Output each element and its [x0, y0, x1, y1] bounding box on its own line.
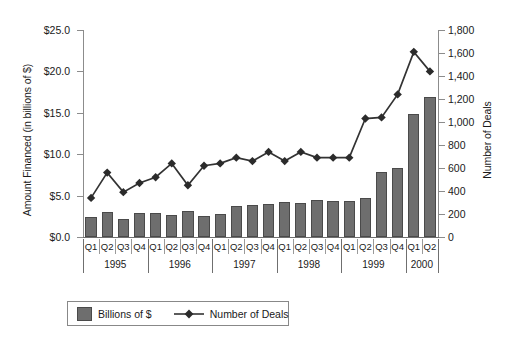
- right-tick-label: 800: [448, 140, 466, 150]
- x-tick-label: Q4: [131, 241, 147, 253]
- legend-item-bars: Billions of $: [77, 307, 152, 321]
- x-tick-label: Q3: [309, 241, 325, 253]
- x-tick-label: Q2: [164, 241, 180, 253]
- x-quarter-separator: [244, 239, 245, 254]
- x-tick-label: Q1: [83, 241, 99, 253]
- x-year-label: 1998: [277, 259, 342, 271]
- x-tick-label: Q1: [148, 241, 164, 253]
- x-year-label: 1996: [148, 259, 213, 271]
- x-quarter-separator: [115, 239, 116, 254]
- line-marker-diamond: [313, 153, 321, 161]
- right-tick: [439, 53, 445, 54]
- line-marker-diamond: [297, 148, 305, 156]
- right-tick-label: 200: [448, 209, 466, 219]
- x-tick-label: Q3: [244, 241, 260, 253]
- x-year-separator: [212, 239, 213, 273]
- chart-legend: Billions of $ Number of Deals: [67, 301, 289, 326]
- x-year-label: 2000: [406, 259, 438, 271]
- left-tick-label: $10.0: [44, 149, 70, 159]
- right-tick: [439, 168, 445, 169]
- x-tick-label: Q1: [277, 241, 293, 253]
- line-marker-diamond: [345, 153, 353, 161]
- line-marker-diamond: [87, 194, 95, 202]
- x-tick-label: Q2: [422, 241, 438, 253]
- x-quarter-separator: [228, 239, 229, 254]
- left-tick-label: $20.0: [44, 66, 70, 76]
- right-tick-label: 1,800: [448, 25, 474, 35]
- x-tick-label: Q1: [406, 241, 422, 253]
- right-tick: [439, 99, 445, 100]
- line-marker-diamond: [329, 153, 337, 161]
- legend-label-line: Number of Deals: [210, 308, 289, 320]
- x-tick-label: Q2: [293, 241, 309, 253]
- x-quarter-separator: [196, 239, 197, 254]
- right-tick: [439, 145, 445, 146]
- x-year-separator: [83, 239, 84, 273]
- line-marker-diamond: [135, 179, 143, 187]
- line-marker-diamond: [264, 148, 272, 156]
- x-quarter-separator: [357, 239, 358, 254]
- x-tick-label: Q2: [99, 241, 115, 253]
- legend-label-bars: Billions of $: [98, 308, 152, 320]
- x-tick-label: Q2: [228, 241, 244, 253]
- x-tick-label: Q4: [261, 241, 277, 253]
- right-tick: [439, 122, 445, 123]
- x-quarter-separator: [261, 239, 262, 254]
- right-tick-label: 1,400: [448, 71, 474, 81]
- left-axis-title: Amount Financed (in billions of $): [20, 40, 34, 240]
- x-year-separator: [148, 239, 149, 273]
- right-tick-label: 1,000: [448, 117, 474, 127]
- x-quarter-separator: [309, 239, 310, 254]
- x-tick-label: Q2: [357, 241, 373, 253]
- right-tick-label: 1,600: [448, 48, 474, 58]
- right-tick: [439, 214, 445, 215]
- left-tick-label: $5.0: [50, 191, 70, 201]
- x-tick-label: Q4: [196, 241, 212, 253]
- line-path: [91, 52, 430, 198]
- legend-line-diamond-icon: [174, 308, 204, 320]
- x-quarter-separator: [164, 239, 165, 254]
- right-tick-label: 600: [448, 163, 466, 173]
- right-tick: [439, 30, 445, 31]
- line-series: [83, 30, 439, 238]
- line-marker-diamond: [281, 157, 289, 165]
- left-axis-title-text: Amount Financed (in billions of $): [21, 64, 33, 216]
- x-tick-label: Q3: [115, 241, 131, 253]
- legend-item-line: Number of Deals: [174, 308, 289, 320]
- x-year-separator: [406, 239, 407, 273]
- x-quarter-separator: [131, 239, 132, 254]
- right-tick: [439, 237, 445, 238]
- right-tick: [439, 191, 445, 192]
- left-tick-label: $25.0: [44, 25, 70, 35]
- right-tick-label: 400: [448, 186, 466, 196]
- x-tick-label: Q4: [390, 241, 406, 253]
- x-tick-label: Q3: [373, 241, 389, 253]
- right-tick-label: 1,200: [448, 94, 474, 104]
- x-tick-label: Q3: [180, 241, 196, 253]
- x-quarter-separator: [422, 239, 423, 254]
- left-tick-label: $15.0: [44, 108, 70, 118]
- x-tick-label: Q1: [341, 241, 357, 253]
- x-quarter-separator: [390, 239, 391, 254]
- x-quarter-separator: [293, 239, 294, 254]
- x-year-separator: [277, 239, 278, 273]
- line-marker-diamond: [361, 114, 369, 122]
- x-quarter-separator: [325, 239, 326, 254]
- right-tick: [439, 76, 445, 77]
- left-tick-label: $0.0: [50, 232, 70, 242]
- right-axis-title: Number of Deals: [480, 60, 494, 220]
- x-year-separator: [438, 239, 439, 273]
- x-tick-label: Q1: [212, 241, 228, 253]
- x-year-label: 1997: [212, 259, 277, 271]
- x-year-separator: [341, 239, 342, 273]
- x-year-label: 1995: [83, 259, 148, 271]
- x-quarter-separator: [180, 239, 181, 254]
- x-quarter-separator: [373, 239, 374, 254]
- line-marker-diamond: [248, 157, 256, 165]
- legend-square-icon: [77, 307, 92, 321]
- x-quarter-separator: [99, 239, 100, 254]
- x-tick-label: Q4: [325, 241, 341, 253]
- line-marker-diamond: [216, 159, 224, 167]
- chart-figure: Amount Financed (in billions of $) Numbe…: [0, 0, 514, 348]
- line-marker-diamond: [232, 153, 240, 161]
